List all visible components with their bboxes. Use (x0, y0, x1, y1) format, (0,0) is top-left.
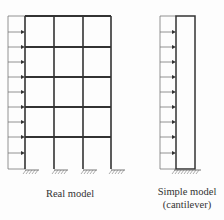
hatch-mark (29, 170, 32, 174)
hatch-mark (190, 170, 193, 174)
hatch-mark (32, 170, 35, 174)
hatch-mark (26, 170, 29, 174)
hatch-mark (55, 170, 58, 174)
hatch-mark (196, 170, 199, 174)
hatch-mark (64, 170, 67, 174)
hatch-mark (90, 170, 93, 174)
hatch-mark (84, 170, 87, 174)
hatch-mark (184, 170, 187, 174)
real-model-label: Real model (20, 188, 120, 200)
hatch-mark (23, 170, 26, 174)
hatch-mark (35, 170, 38, 174)
cantilever-label: (cantilever) (150, 199, 224, 211)
hatch-mark (115, 170, 118, 174)
hatch-mark (181, 170, 184, 174)
hatch-mark (193, 170, 196, 174)
hatch-mark (61, 170, 64, 174)
hatch-mark (58, 170, 61, 174)
cantilever-member (176, 16, 195, 169)
simple-model-label: Simple model (150, 186, 224, 198)
hatch-mark (121, 170, 124, 174)
hatch-mark (178, 170, 181, 174)
hatch-mark (93, 170, 96, 174)
hatch-mark (52, 170, 55, 174)
hatch-mark (109, 170, 112, 174)
hatch-mark (118, 170, 121, 174)
hatch-mark (81, 170, 84, 174)
hatch-mark (87, 170, 90, 174)
hatch-mark (112, 170, 115, 174)
hatch-mark (187, 170, 190, 174)
hatch-mark (175, 170, 178, 174)
hatch-mark (172, 170, 175, 174)
